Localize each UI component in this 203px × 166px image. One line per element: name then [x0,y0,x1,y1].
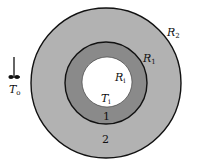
cylinder-diagram: R2 R1 Ri Ti To 1 2 [0,0,203,166]
label-region-2: 2 [102,133,109,146]
thermometer-icon [8,57,20,79]
label-To: To [9,83,21,97]
label-R2: R2 [166,26,180,40]
label-region-1: 1 [103,110,110,123]
